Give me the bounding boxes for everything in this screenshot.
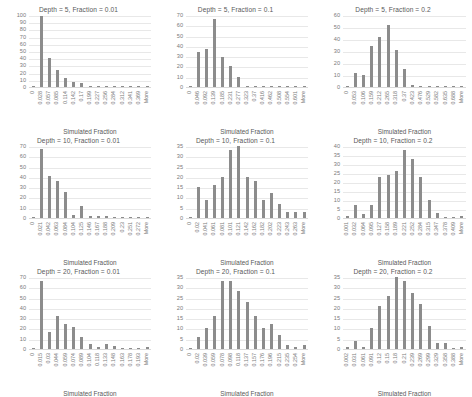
x-tick-slot: 0.02 xyxy=(194,352,202,388)
x-tick-slot: 0.157 xyxy=(251,352,259,388)
x-tick-label: 0.137 xyxy=(244,353,249,367)
x-tick-label: 0.358 xyxy=(443,353,448,367)
bar-slot xyxy=(417,147,425,218)
x-tick-slot: 0.23 xyxy=(119,221,127,257)
bar-series xyxy=(343,278,466,349)
bar-slot xyxy=(343,16,351,87)
bar xyxy=(64,78,67,87)
y-tick-label: 40 xyxy=(20,56,26,62)
y-tick-label: 50 xyxy=(177,34,183,40)
x-tick-slot: 0.078 xyxy=(219,352,227,388)
bar-slot xyxy=(251,16,259,87)
y-tick-label: 70 xyxy=(20,35,26,41)
bar xyxy=(419,304,422,349)
bar xyxy=(113,217,116,218)
x-tick-label: More xyxy=(459,222,464,234)
x-tick-label: 0.167 xyxy=(95,222,100,236)
bar xyxy=(411,159,414,218)
x-tick-label: 0.252 xyxy=(410,222,415,236)
x-tick-slot: 0.125 xyxy=(78,221,86,257)
x-tick-label: 0.277 xyxy=(236,91,241,105)
x-tick-label: 0.582 xyxy=(435,91,440,105)
y-tick-label: 60 xyxy=(177,23,183,29)
bar xyxy=(221,57,224,87)
x-tick-slot: 0.133 xyxy=(102,352,110,388)
bar xyxy=(72,327,75,349)
bar-slot xyxy=(417,16,425,87)
y-tick-label: 40 xyxy=(334,144,340,150)
x-tick-label: 0.059 xyxy=(63,353,68,367)
bar xyxy=(246,177,249,218)
y-axis: 05101520253035 xyxy=(163,147,185,219)
bar-slot xyxy=(276,147,284,218)
y-tick-label: 0 xyxy=(23,85,26,91)
bar xyxy=(411,85,414,87)
plot-canvas xyxy=(343,278,466,350)
x-tick-slot: 0.323 xyxy=(243,90,251,126)
x-tick-slot: 0.21 xyxy=(400,352,408,388)
y-tick-label: 20 xyxy=(177,175,183,181)
x-tick-slot: 0.388 xyxy=(450,352,458,388)
bar xyxy=(89,86,92,87)
bar-slot xyxy=(376,147,384,218)
bar-slot xyxy=(45,147,53,218)
bar xyxy=(48,332,51,349)
bar-slot xyxy=(62,147,70,218)
bar xyxy=(286,86,289,87)
x-tick-label: 0 xyxy=(30,222,35,225)
bar-slot xyxy=(384,278,392,349)
y-tick-label: 10 xyxy=(177,75,183,81)
y-tick-label: 10 xyxy=(20,206,26,212)
x-tick-label: 0 xyxy=(30,91,35,94)
bar xyxy=(370,328,373,349)
x-tick-slot: 0.163 xyxy=(119,352,127,388)
bar xyxy=(395,50,398,87)
y-tick-label: 0 xyxy=(180,85,183,91)
x-tick-slot: 0.188 xyxy=(102,221,110,257)
x-tick-slot: 0.098 xyxy=(227,352,235,388)
x-tick-slot: 0.272 xyxy=(135,221,143,257)
bar xyxy=(254,181,257,218)
y-tick-label: 40 xyxy=(177,44,183,50)
bar xyxy=(428,86,431,87)
bar xyxy=(48,176,51,218)
x-tick-label: 0 xyxy=(187,91,192,94)
x-tick-label: 0.21 xyxy=(402,353,407,364)
x-tick-label: 0.03 xyxy=(47,353,52,364)
y-axis: 010203040506070 xyxy=(6,278,28,350)
y-tick-label: 80 xyxy=(20,28,26,34)
y-axis: 010203040506070 xyxy=(6,147,28,219)
bar-slot xyxy=(300,16,308,87)
chart-panel-8: Depth = 20, Fraction = 0.205101520253035… xyxy=(314,262,472,393)
bar-slot xyxy=(86,147,94,218)
bar-slot xyxy=(219,278,227,349)
x-axis-labels: 00.0530.1060.1590.2120.2650.3180.370.423… xyxy=(343,90,466,126)
x-tick-label: 0.081 xyxy=(220,222,225,236)
bar xyxy=(40,281,43,349)
bar xyxy=(56,316,59,349)
x-tick-label: 0.084 xyxy=(63,222,68,236)
x-tick-slot: 0.118 xyxy=(94,352,102,388)
bar-slot xyxy=(343,147,351,218)
bar-slot xyxy=(210,278,218,349)
x-tick-label: 0.046 xyxy=(196,91,201,105)
bar xyxy=(303,345,306,349)
bar-slot xyxy=(351,16,359,87)
bar xyxy=(286,345,289,349)
bar-slot xyxy=(458,147,466,218)
bar-slot xyxy=(351,147,359,218)
x-tick-slot: 0.001 xyxy=(343,221,351,257)
bar xyxy=(378,306,381,349)
x-tick-label: 0.323 xyxy=(244,91,249,105)
x-tick-slot: 0.121 xyxy=(235,221,243,257)
x-axis-labels: 00.020.0390.0590.0780.0980.1180.1370.157… xyxy=(186,352,308,388)
x-tick-slot: 0.17 xyxy=(78,90,86,126)
x-tick-label: 0.059 xyxy=(212,353,217,367)
bar-slot xyxy=(78,278,86,349)
x-tick-label: 0.142 xyxy=(244,222,249,236)
bar xyxy=(270,324,273,349)
y-tick-label: 60 xyxy=(20,42,26,48)
x-tick-slot: 0.057 xyxy=(45,90,53,126)
x-tick-label: 0.23 xyxy=(120,222,125,233)
y-tick-label: 10 xyxy=(20,337,26,343)
